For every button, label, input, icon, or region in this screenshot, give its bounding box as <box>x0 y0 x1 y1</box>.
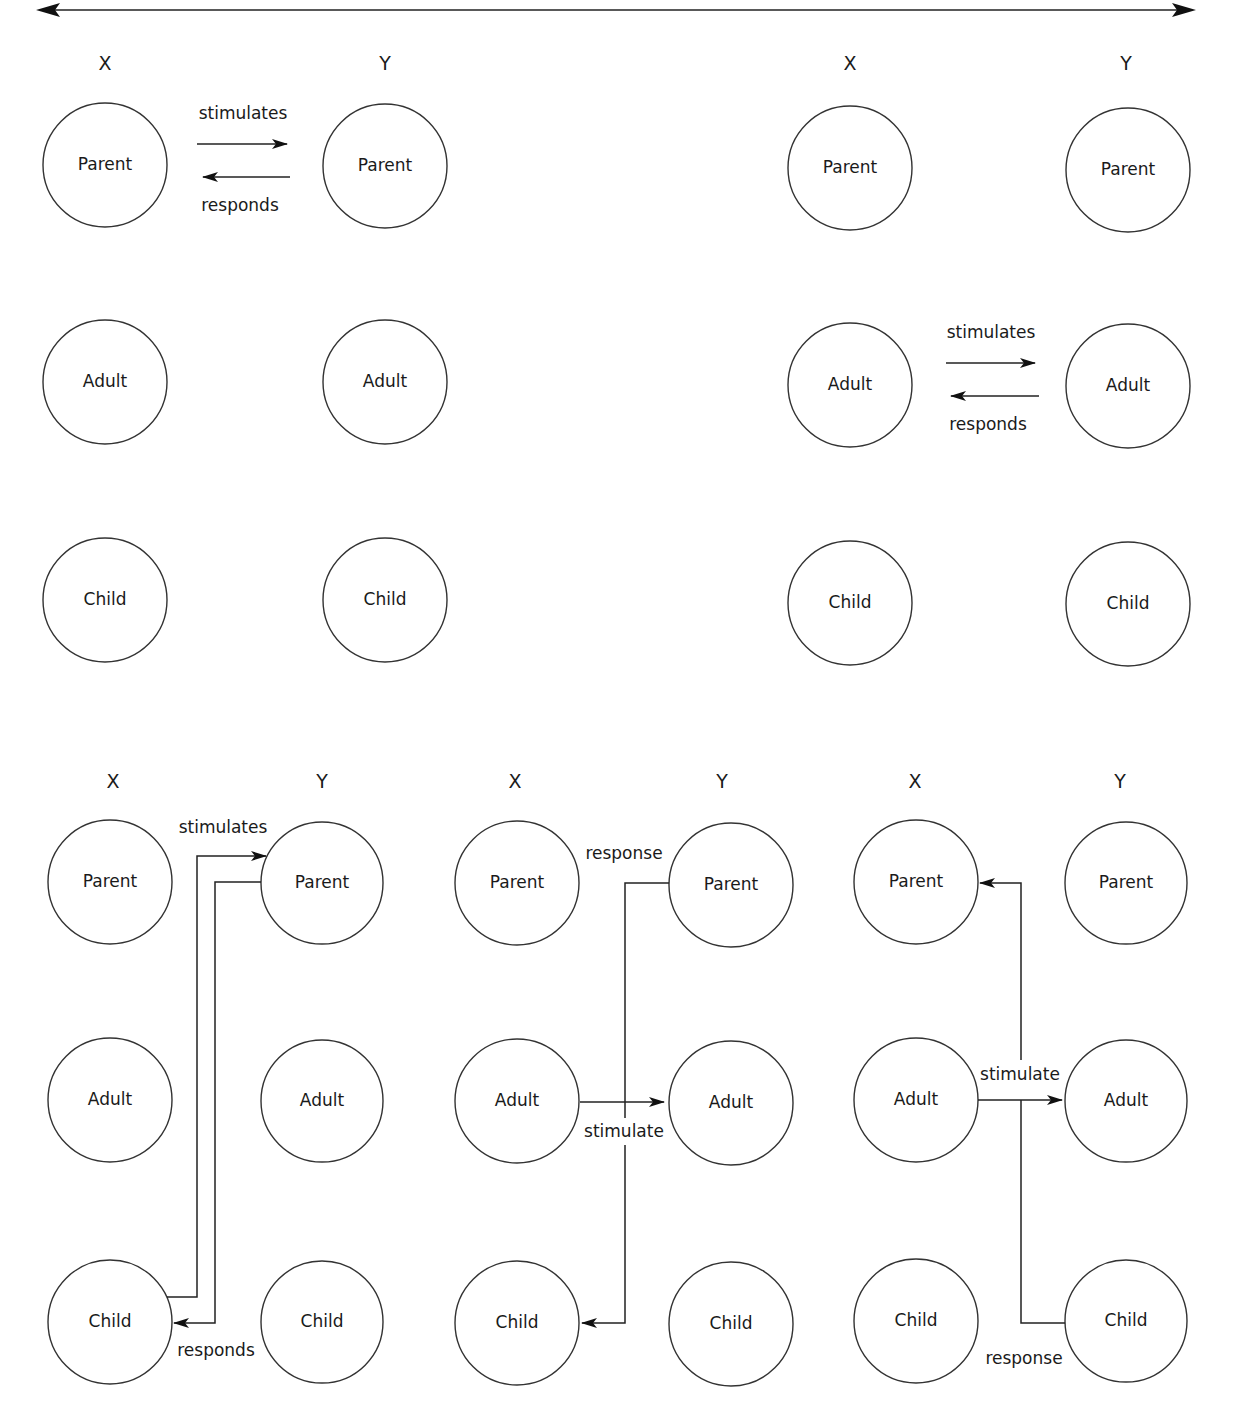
ego-state-y-child: Child <box>323 538 447 662</box>
panel-top-right: X Y Parent Adult Child Parent Adult Chil… <box>788 52 1190 666</box>
ego-state-y-adult: Adult <box>323 320 447 444</box>
svg-text:Child: Child <box>1105 1310 1148 1330</box>
panel-top-left: X Y Parent Adult Child Parent Adult Chil… <box>43 52 447 662</box>
ego-state-y-child: Child <box>669 1262 793 1386</box>
ego-state-x-child: Child <box>48 1260 172 1384</box>
edge-label-response: response <box>985 1348 1062 1368</box>
svg-text:Child: Child <box>496 1312 539 1332</box>
ego-state-y-child: Child <box>1066 542 1190 666</box>
ego-state-y-parent: Parent <box>669 823 793 947</box>
svg-text:Child: Child <box>301 1311 344 1331</box>
arrow-response-child-to-parent <box>980 883 1021 1060</box>
arrow-responds-parent-to-child <box>174 882 261 1323</box>
ego-state-x-parent: Parent <box>43 103 167 227</box>
ego-state-x-adult: Adult <box>43 320 167 444</box>
panel-bottom-left: X Y Parent Adult Child Parent Adult Chil… <box>48 770 383 1384</box>
ego-state-x-child: Child <box>455 1261 579 1385</box>
ego-state-x-adult: Adult <box>854 1038 978 1162</box>
ego-state-y-parent: Parent <box>1066 108 1190 232</box>
double-headed-arrow <box>36 3 1196 17</box>
svg-text:Adult: Adult <box>1106 375 1151 395</box>
svg-text:Child: Child <box>84 589 127 609</box>
edge-label-responds: responds <box>949 414 1027 434</box>
ego-state-x-parent: Parent <box>788 106 912 230</box>
ego-state-x-parent: Parent <box>48 820 172 944</box>
svg-text:Adult: Adult <box>495 1090 540 1110</box>
svg-text:Adult: Adult <box>83 371 128 391</box>
svg-text:Parent: Parent <box>490 872 545 892</box>
svg-text:Parent: Parent <box>889 871 944 891</box>
svg-text:Parent: Parent <box>704 874 759 894</box>
column-label-y: Y <box>1119 52 1132 74</box>
column-label-y: Y <box>1113 770 1126 792</box>
svg-text:Adult: Adult <box>88 1089 133 1109</box>
svg-text:Adult: Adult <box>1104 1090 1149 1110</box>
svg-text:Child: Child <box>364 589 407 609</box>
svg-text:Adult: Adult <box>709 1092 754 1112</box>
ego-state-x-child: Child <box>43 538 167 662</box>
ego-state-x-adult: Adult <box>788 323 912 447</box>
arrow-response-child-to-parent <box>1021 1100 1065 1323</box>
panel-bottom-middle: X Y Parent Adult Child Parent Adult Chil… <box>455 770 793 1386</box>
svg-text:Adult: Adult <box>828 374 873 394</box>
svg-text:Parent: Parent <box>1101 159 1156 179</box>
svg-text:Parent: Parent <box>358 155 413 175</box>
ego-state-x-adult: Adult <box>455 1039 579 1163</box>
ego-state-x-child: Child <box>788 541 912 665</box>
column-label-y: Y <box>315 770 328 792</box>
svg-text:Parent: Parent <box>78 154 133 174</box>
svg-text:Adult: Adult <box>363 371 408 391</box>
ego-state-y-parent: Parent <box>323 104 447 228</box>
edge-label-stimulate: stimulate <box>980 1064 1060 1084</box>
svg-text:Parent: Parent <box>295 872 350 892</box>
edge-label-responds: responds <box>201 195 279 215</box>
svg-text:Parent: Parent <box>83 871 138 891</box>
column-label-x: X <box>106 770 119 792</box>
svg-text:Child: Child <box>89 1311 132 1331</box>
ego-state-y-adult: Adult <box>261 1040 383 1162</box>
transaction-diagram: X Y Parent Adult Child Parent Adult Chil… <box>0 0 1234 1418</box>
svg-text:Parent: Parent <box>1099 872 1154 892</box>
ego-state-x-parent: Parent <box>455 821 579 945</box>
ego-state-y-child: Child <box>1065 1260 1187 1382</box>
edge-label-stimulate: stimulate <box>584 1121 664 1141</box>
ego-state-x-child: Child <box>854 1259 978 1383</box>
column-label-x: X <box>508 770 521 792</box>
ego-state-x-adult: Adult <box>48 1038 172 1162</box>
column-label-x: X <box>98 52 111 74</box>
svg-text:Child: Child <box>1107 593 1150 613</box>
ego-state-y-parent: Parent <box>1065 822 1187 944</box>
ego-state-y-adult: Adult <box>1065 1040 1187 1162</box>
ego-state-y-adult: Adult <box>1066 324 1190 448</box>
ego-state-y-adult: Adult <box>669 1041 793 1165</box>
svg-text:Adult: Adult <box>300 1090 345 1110</box>
ego-state-x-parent: Parent <box>854 820 978 944</box>
ego-state-y-parent: Parent <box>261 822 383 944</box>
ego-state-y-child: Child <box>261 1261 383 1383</box>
svg-text:Parent: Parent <box>823 157 878 177</box>
column-label-y: Y <box>378 52 391 74</box>
svg-text:Child: Child <box>710 1313 753 1333</box>
panel-bottom-right: X Y Parent Adult Child Parent Adult Chil… <box>854 770 1187 1383</box>
svg-text:Child: Child <box>895 1310 938 1330</box>
edge-label-response: response <box>585 843 662 863</box>
arrow-stimulates-child-to-parent <box>167 856 266 1297</box>
column-label-x: X <box>843 52 856 74</box>
column-label-y: Y <box>715 770 728 792</box>
svg-text:Adult: Adult <box>894 1089 939 1109</box>
arrow-response-parent-to-child <box>582 1145 625 1323</box>
edge-label-stimulates: stimulates <box>199 103 288 123</box>
svg-text:Child: Child <box>829 592 872 612</box>
edge-label-stimulates: stimulates <box>179 817 268 837</box>
edge-label-stimulates: stimulates <box>947 322 1036 342</box>
column-label-x: X <box>908 770 921 792</box>
arrow-response-parent-to-child <box>625 883 669 1118</box>
edge-label-responds: responds <box>177 1340 255 1360</box>
